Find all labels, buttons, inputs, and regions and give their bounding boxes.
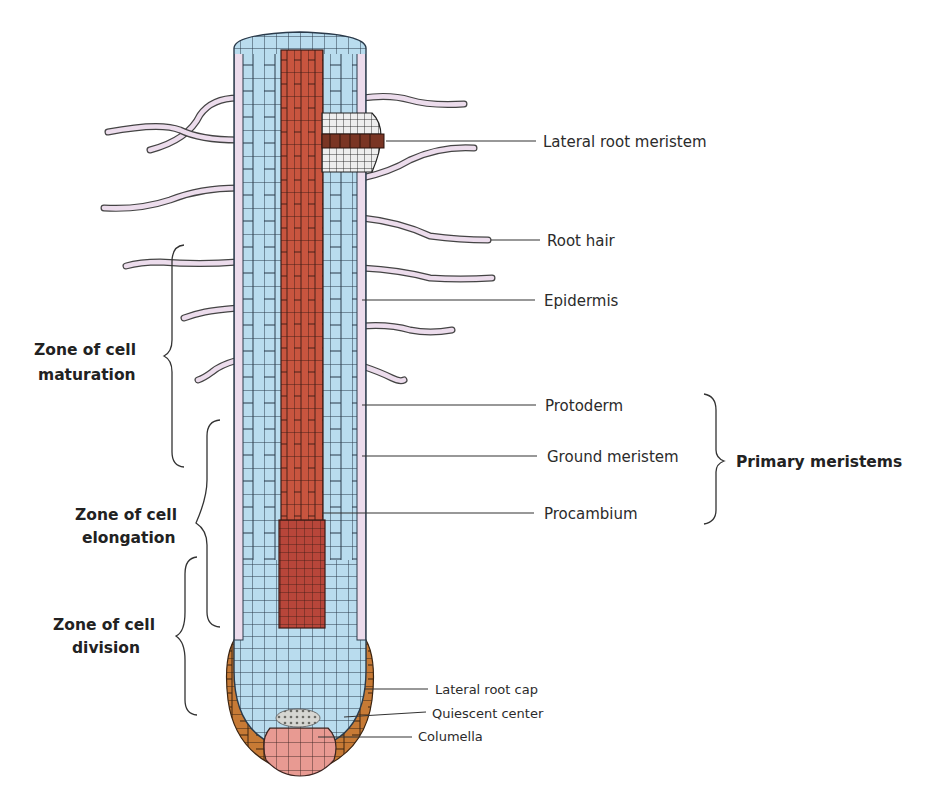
label-procambium: Procambium (544, 505, 638, 523)
label-epidermis: Epidermis (544, 292, 619, 310)
zone-division-line1: Zone of cell (53, 616, 155, 634)
zone-division-line2: division (72, 639, 140, 657)
label-protoderm: Protoderm (545, 397, 623, 415)
label-primary-meristems: Primary meristems (736, 453, 902, 471)
label-columella: Columella (418, 729, 483, 744)
zone-elongation-line2: elongation (82, 529, 175, 547)
label-lateral-root-meristem: Lateral root meristem (543, 133, 707, 151)
zone-maturation-line2: maturation (38, 366, 136, 384)
label-quiescent-center: Quiescent center (432, 706, 544, 721)
root-tip-diagram: Lateral root meristem Root hair Epidermi… (0, 0, 947, 805)
primary-meristems-brace (704, 394, 724, 524)
label-lateral-root-cap: Lateral root cap (435, 682, 538, 697)
quiescent-center (276, 709, 320, 727)
lateral-root-meristem (322, 113, 384, 172)
label-root-hair: Root hair (547, 232, 616, 250)
maturation-brace (164, 245, 184, 467)
zone-maturation-line1: Zone of cell (34, 341, 136, 359)
root-hairs-left (104, 98, 238, 380)
elongation-brace (196, 420, 220, 627)
procambium-column (281, 50, 323, 530)
division-brace (176, 557, 197, 715)
label-ground-meristem: Ground meristem (547, 448, 679, 466)
columella (264, 728, 336, 776)
zone-elongation-line1: Zone of cell (75, 506, 177, 524)
